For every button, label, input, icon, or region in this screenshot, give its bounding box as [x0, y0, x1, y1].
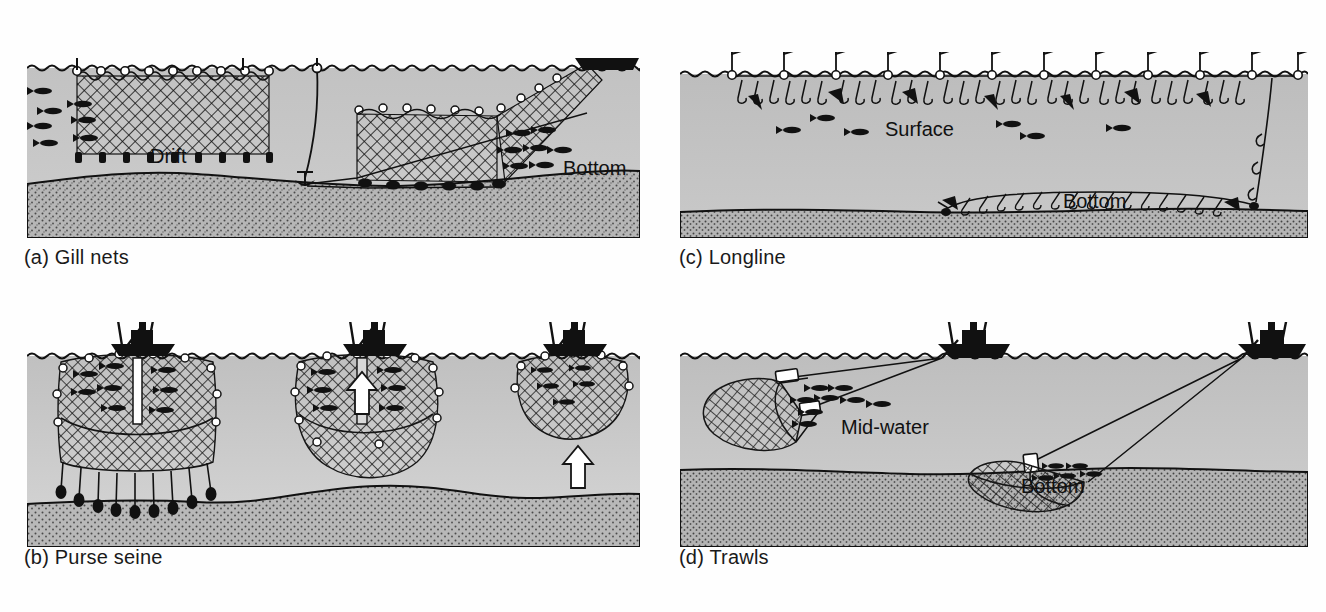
panel-gill-nets: Drift Bottom (a) Gill nets — [0, 0, 663, 300]
label-surface: Surface — [885, 118, 954, 141]
label-mid-water: Mid-water — [841, 416, 929, 439]
label-bottom-a: Bottom — [563, 157, 626, 180]
label-drift: Drift — [150, 145, 187, 168]
label-bottom-c: Bottom — [1063, 190, 1126, 213]
trawler-midwater — [938, 322, 1010, 358]
panel-c-scene — [680, 52, 1308, 238]
panel-trawls: Mid-water Bottom (d) Trawls — [663, 300, 1326, 612]
purse-seine-boat-2 — [343, 322, 407, 356]
caption-panel-a: (a) Gill nets — [24, 246, 129, 269]
caption-panel-d: (d) Trawls — [679, 546, 769, 569]
panel-longline: Surface Bottom (c) Longline — [663, 0, 1326, 300]
caption-panel-c: (c) Longline — [679, 246, 786, 269]
panel-b-scene — [27, 322, 640, 547]
panel-a-scene — [27, 58, 640, 238]
purse-seine-boat-1 — [111, 322, 175, 356]
purse-seine-boat-3 — [543, 322, 607, 356]
label-bottom-d: Bottom — [1021, 475, 1084, 498]
trawler-bottom — [1238, 322, 1306, 358]
fishing-gear-figure: Drift Bottom (a) Gill nets — [0, 0, 1326, 612]
panel-d-scene — [680, 322, 1308, 547]
panel-purse-seine: (b) Purse seine — [0, 300, 663, 612]
surface-marker-flags — [732, 52, 1308, 71]
fishing-boat — [575, 58, 639, 70]
caption-panel-b: (b) Purse seine — [24, 546, 163, 569]
